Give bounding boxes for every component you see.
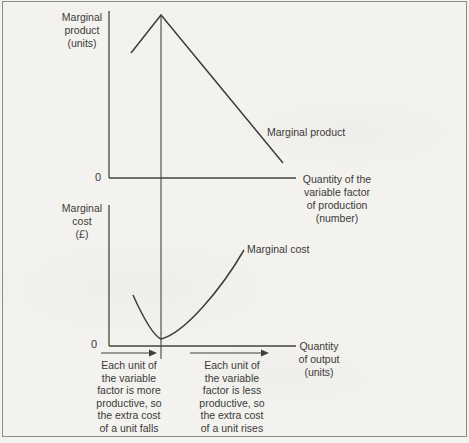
top-origin-label: 0 [95,171,101,184]
marginal-cost-curve [133,250,244,339]
figure-marginal-product-cost: Marginal product (units) 0 Marginal prod… [0,0,469,443]
top-y-axis-label: Marginal product (units) [62,11,102,50]
left-range-arrow [101,350,157,357]
bottom-chart-axes [109,205,296,346]
bottom-y-axis-label: Marginal cost (£) [62,202,102,241]
bottom-origin-label: 0 [91,338,97,351]
marginal-product-curve-label: Marginal product [267,126,345,139]
right-arrowhead-icon [149,350,157,357]
top-chart-axes [109,11,296,178]
top-x-axis-label: Quantity of the variable factor of produ… [303,173,371,225]
marginal-product-curve [131,15,283,163]
annotation-cost-falls: Each unit of the variable factor is more… [96,359,161,434]
bottom-x-axis-label: Quantity of output (units) [299,340,340,379]
right-arrowhead-icon [261,350,269,357]
marginal-cost-curve-label: Marginal cost [247,243,309,256]
annotation-cost-rises: Each unit of the variable factor is less… [199,359,264,434]
right-range-arrow [190,350,269,357]
